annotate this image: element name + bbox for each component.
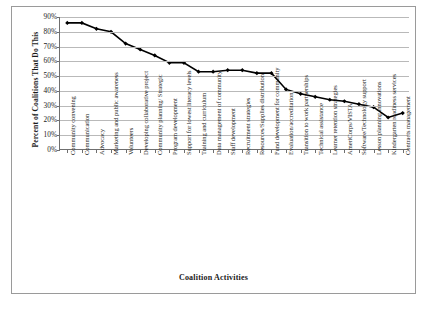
data-point-marker — [94, 27, 98, 31]
y-axis-tick — [57, 150, 60, 151]
y-axis-tick-label: 40% — [44, 87, 57, 94]
chart-figure: Percent of Coalitions That Do This 90%80… — [0, 0, 429, 314]
x-axis-tick-label: Evaluation/accreditation — [288, 93, 295, 155]
y-axis-tick-label: 70% — [44, 43, 57, 50]
x-axis-tick-label: Community planning/ Strategic — [157, 74, 164, 155]
data-point-marker — [80, 21, 84, 25]
gridline — [60, 17, 409, 18]
gridline — [60, 61, 409, 62]
y-axis-tick — [57, 17, 60, 18]
x-axis-tick-label: Advocacy — [99, 129, 106, 155]
gridline — [60, 47, 409, 48]
x-axis-tick-label: Program development — [172, 98, 179, 155]
y-axis-tick-label: 10% — [44, 132, 57, 139]
plot-area: 90%80%70%60%50%40%30%20%10%0%Community c… — [59, 17, 409, 150]
y-axis-tick-label: 60% — [44, 58, 57, 65]
data-point-marker — [313, 95, 317, 99]
y-axis-tick-label: 80% — [44, 28, 57, 35]
y-axis-tick-label: 90% — [44, 13, 57, 20]
data-point-marker — [240, 68, 244, 72]
y-axis-tick — [57, 32, 60, 33]
y-axis-tick — [57, 76, 60, 77]
x-axis-tick-label: Technical assistance — [318, 103, 325, 155]
figure-caption — [14, 299, 414, 308]
x-axis-tick-label: Developing collaborative project — [143, 71, 150, 155]
x-axis-tick — [388, 150, 389, 153]
x-axis-tick-label: Kindergarten readiness services — [391, 74, 398, 155]
x-axis-tick-label: Learner retention strategies — [332, 85, 339, 155]
x-axis-tick-label: Software/Technology support — [361, 79, 368, 155]
x-axis-tick-label: Transition to work partnerships — [303, 75, 310, 155]
x-axis-tick-label: Lesson planning innovations — [376, 82, 383, 155]
x-axis-tick-label: Volunteers — [128, 128, 135, 155]
gridline — [60, 32, 409, 33]
data-point-marker — [138, 47, 142, 51]
chart-frame: Percent of Coalitions That Do This 90%80… — [11, 6, 416, 294]
data-point-marker — [65, 21, 69, 25]
x-axis-tick-label: Fund development for community — [274, 67, 281, 155]
x-axis-title: Coalition Activities — [12, 273, 415, 282]
x-axis-tick-label: Recruitment strategies — [245, 98, 252, 155]
x-axis-tick-label: Resources/Supplies distribution — [259, 74, 266, 155]
x-axis-tick-label: AmeriCorps/VISTA — [347, 103, 354, 155]
x-axis-tick-label: Marketing and public awareness — [113, 72, 120, 155]
x-axis-tick-label: Training and curriculum — [201, 93, 208, 155]
x-axis-tick — [213, 150, 214, 153]
y-axis-tick-label: 0% — [47, 146, 57, 153]
y-axis-tick — [57, 47, 60, 48]
y-axis-tick — [57, 106, 60, 107]
y-axis-title: Percent of Coalitions That Do This — [31, 15, 40, 165]
y-axis-tick — [57, 61, 60, 62]
x-axis-tick-label: Support for lowest literacy levels — [186, 70, 193, 155]
y-axis-tick-label: 30% — [44, 102, 57, 109]
x-axis-tick-label: Data management of community — [216, 71, 223, 155]
y-axis-tick — [57, 135, 60, 136]
y-axis-tick-label: 50% — [44, 73, 57, 80]
x-axis-tick-label: Contracts management — [405, 96, 412, 155]
x-axis-tick-label: Staff development — [230, 108, 237, 155]
y-axis-tick — [57, 91, 60, 92]
x-axis-tick-label: Communication — [84, 114, 91, 155]
y-axis-tick — [57, 120, 60, 121]
y-axis-tick-label: 20% — [44, 117, 57, 124]
x-axis-tick-label: Community convening — [70, 96, 77, 155]
data-point-marker — [226, 68, 230, 72]
